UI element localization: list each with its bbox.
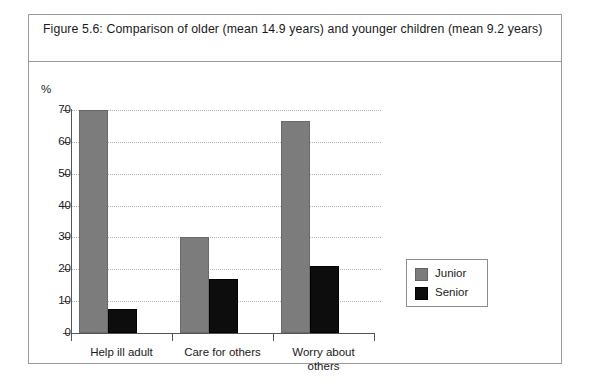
figure-frame: Figure 5.6: Comparison of older (mean 14… <box>28 14 562 364</box>
legend-label-junior: Junior <box>435 267 466 279</box>
y-axis-tick-label: 30 <box>43 230 71 242</box>
x-axis-category-label: Help ill adult <box>71 345 172 359</box>
bar-senior-3 <box>310 266 339 333</box>
chart-legend: Junior Senior <box>406 259 488 307</box>
x-axis-tick-mark <box>374 333 375 341</box>
y-axis-tick-label: 0 <box>43 326 71 338</box>
figure-caption: Figure 5.6: Comparison of older (mean 14… <box>43 21 545 38</box>
x-axis-category-label-line: Care for others <box>172 345 273 359</box>
y-axis-tick-label: 60 <box>43 135 71 147</box>
bar-junior-2 <box>180 237 209 333</box>
x-axis-tick-mark <box>71 333 72 341</box>
y-axis-tick-label: 70 <box>43 103 71 115</box>
bar-senior-1 <box>108 309 137 333</box>
x-axis-category-label: Worry aboutothers <box>273 345 374 373</box>
legend-swatch-junior-icon <box>415 268 428 281</box>
x-axis-line <box>71 333 374 334</box>
bar-junior-1 <box>79 110 108 333</box>
y-axis-tick-label: 40 <box>43 199 71 211</box>
bar-junior-3 <box>281 121 310 333</box>
legend-swatch-senior-icon <box>415 287 428 300</box>
gridline <box>71 206 381 207</box>
y-axis-tick-label: 10 <box>43 294 71 306</box>
y-axis-line <box>71 109 72 334</box>
x-axis-category-label-line: others <box>273 359 374 373</box>
figure-caption-area: Figure 5.6: Comparison of older (mean 14… <box>29 15 561 62</box>
y-axis-tick-label: 20 <box>43 262 71 274</box>
chart-plot-area: % 010203040506070 Help ill adultCare for… <box>29 63 561 363</box>
x-axis-category-label-line: Help ill adult <box>71 345 172 359</box>
gridline <box>71 237 381 238</box>
x-axis-tick-mark <box>172 333 173 341</box>
bar-senior-2 <box>209 279 238 333</box>
legend-label-senior: Senior <box>435 286 468 298</box>
gridline <box>71 110 381 111</box>
x-axis-category-label-line: Worry about <box>273 345 374 359</box>
gridline <box>71 142 381 143</box>
gridline <box>71 174 381 175</box>
x-axis-category-label: Care for others <box>172 345 273 359</box>
y-axis-tick-label: 50 <box>43 167 71 179</box>
x-axis-tick-mark <box>273 333 274 341</box>
